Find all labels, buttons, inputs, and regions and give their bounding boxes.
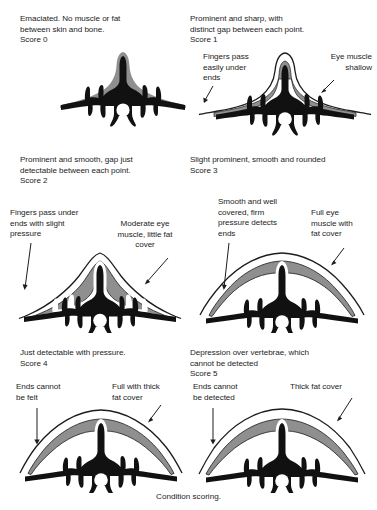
vertebra-diagram-score-0 [58,50,188,136]
figure-caption-footer: Condition scoring. [0,492,377,503]
vertebra-diagram-score-2 [16,248,184,333]
vertebra-diagram-score-4 [16,405,186,493]
callout-score-3-right: Full eye muscle with fat cover [311,208,375,240]
caption-score-0: Emaciated. No muscle or fat between skin… [20,14,190,46]
caption-score-3: Slight prominent, smooth and rounded Sco… [190,155,377,176]
callout-score-2-left: Fingers pass under ends with slight pres… [10,208,114,240]
callout-score-5-left: Ends cannot be detected [193,382,269,403]
callout-score-2-right: Moderate eye muscle, little fat cover [106,219,184,251]
caption-score-2: Prominent and smooth, gap just detectabl… [20,155,200,187]
callout-score-4-right: Full with thick fat cover [112,382,186,403]
callout-score-3-left: Smooth and well covered, firm pressure d… [218,197,298,239]
callout-score-4-left: Ends cannot be felt [16,382,86,403]
callout-score-5-right: Thick fat cover [290,382,374,393]
caption-score-4: Just detectable with pressure. Score 4 [20,348,200,369]
vertebra-diagram-score-3 [196,248,368,333]
caption-score-5: Depression over vertebrae, which cannot … [190,348,376,380]
vertebra-diagram-score-1 [196,48,374,138]
condition-scoring-figure: Emaciated. No muscle or fat between skin… [0,0,377,510]
vertebra-diagram-score-5 [196,405,368,493]
caption-score-1: Prominent and sharp, with distinct gap b… [190,14,375,46]
